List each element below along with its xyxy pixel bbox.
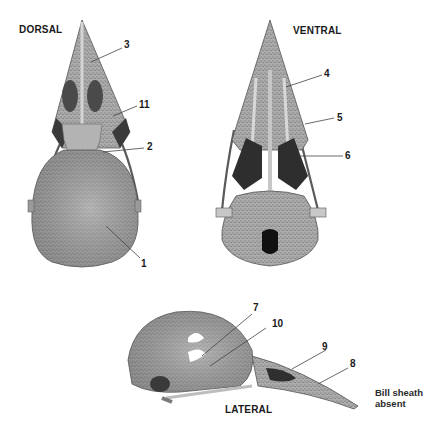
- lateral-view-title: LATERAL: [225, 404, 272, 415]
- label-3: 3: [124, 39, 130, 50]
- label-9: 9: [322, 341, 328, 352]
- dorsal-skull: [28, 20, 141, 267]
- dorsal-view-title: DORSAL: [19, 24, 62, 35]
- ventral-skull: [216, 20, 326, 266]
- label-7: 7: [253, 302, 259, 313]
- ventral-view-title: VENTRAL: [293, 25, 342, 36]
- bill-sheath-note-line2: absent: [375, 398, 423, 409]
- label-4: 4: [324, 68, 330, 79]
- skull-illustrations: [0, 0, 424, 429]
- label-2: 2: [147, 141, 153, 152]
- label-6: 6: [345, 150, 351, 161]
- label-5: 5: [337, 112, 343, 123]
- label-10: 10: [272, 318, 283, 329]
- bill-sheath-note: Bill sheath absent: [375, 387, 423, 409]
- label-8: 8: [350, 358, 356, 369]
- label-11: 11: [139, 99, 150, 110]
- bird-skull-diagram: DORSAL VENTRAL LATERAL 3 11 2 1 4 5 6 7 …: [0, 0, 424, 429]
- label-1: 1: [141, 258, 147, 269]
- bill-sheath-note-line1: Bill sheath: [375, 387, 423, 398]
- lateral-skull: [128, 311, 358, 409]
